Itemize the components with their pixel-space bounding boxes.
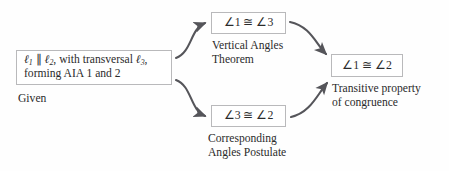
arrow-given-to-corresponding [176,80,205,116]
vertical-angles-statement-box: ∠1 ≅ ∠3 [211,12,286,34]
node-given: ℓ1 ∥ ℓ2, with transversal ℓ3, forming AI… [16,50,172,85]
vertical-angles-reason-label: Vertical Angles Theorem [212,39,283,67]
given-statement-line2: forming AIA 1 and 2 [24,67,147,81]
node-conclusion: ∠1 ≅ ∠2 [331,54,403,77]
conclusion-reason-label: Transitive property of congruence [332,82,421,110]
arrow-vertical-to-conclusion [290,22,326,54]
arrow-given-to-vertical [176,23,205,58]
corresponding-angles-reason-label: Corresponding Angles Postulate [208,132,286,160]
arrow-corresponding-to-conclusion [291,83,327,117]
given-reason-label: Given [18,92,46,106]
diagram-canvas: ℓ1 ∥ ℓ2, with transversal ℓ3, forming AI… [0,0,449,171]
given-statement-line1: ℓ1 ∥ ℓ2, with transversal ℓ3, [24,53,147,68]
node-corresponding-angles: ∠3 ≅ ∠2 [211,105,286,127]
corresponding-angles-statement-box: ∠3 ≅ ∠2 [211,105,286,127]
given-statement-box: ℓ1 ∥ ℓ2, with transversal ℓ3, forming AI… [16,50,172,85]
conclusion-statement-box: ∠1 ≅ ∠2 [331,54,403,77]
node-vertical-angles: ∠1 ≅ ∠3 [211,12,286,34]
